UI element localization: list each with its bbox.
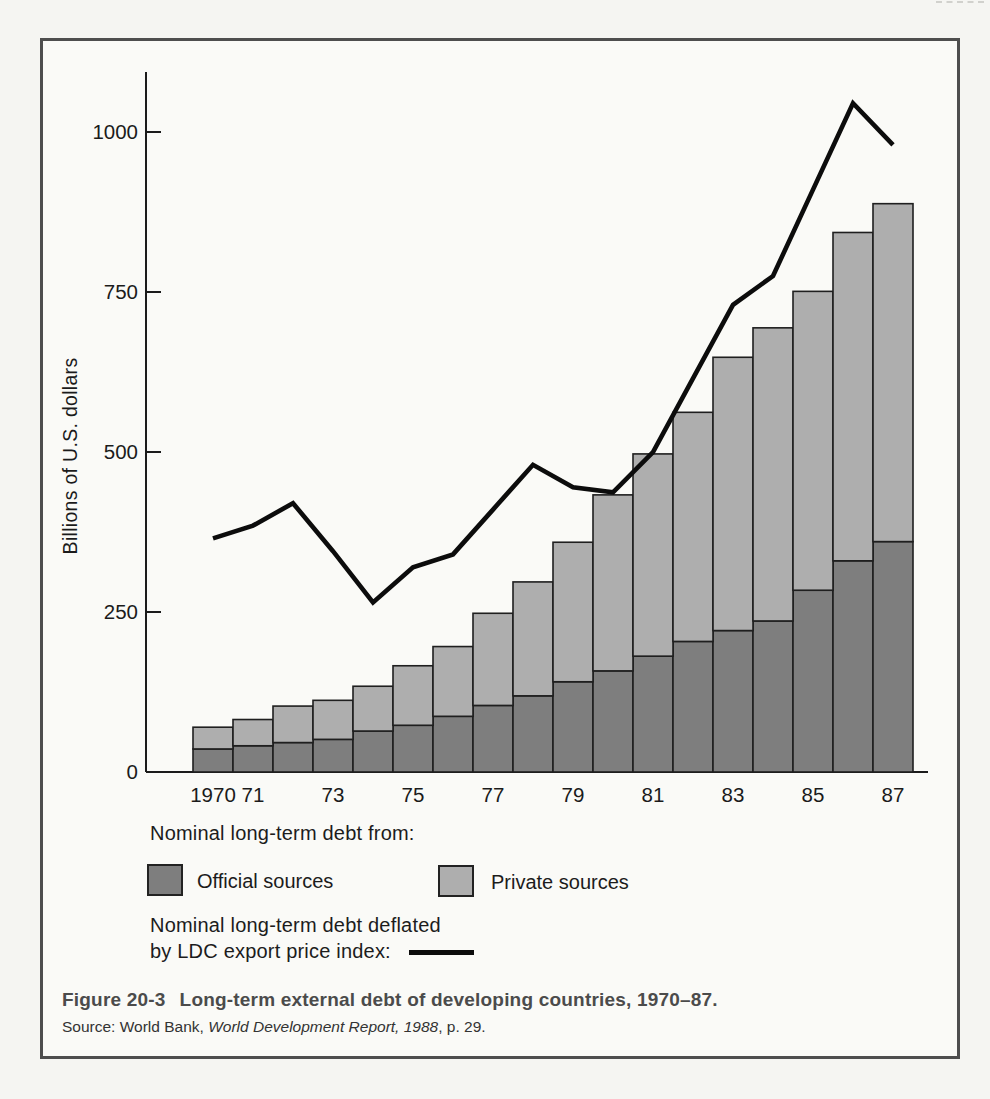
bar-private-1976 <box>433 647 473 717</box>
bar-official-1974 <box>353 731 393 772</box>
bar-official-1985 <box>793 590 833 772</box>
bar-private-1970 <box>193 727 233 749</box>
x-tick-label-71: 71 <box>242 783 265 806</box>
bar-official-1972 <box>273 743 313 772</box>
x-tick-labels: 1970717375777981838587 <box>190 783 904 806</box>
bar-private-1982 <box>673 412 713 641</box>
x-tick-label-87: 87 <box>882 783 905 806</box>
bar-official-1971 <box>233 746 273 772</box>
bar-private-1981 <box>633 454 673 656</box>
bar-official-1980 <box>593 671 633 772</box>
private-sources-label: Private sources <box>491 871 629 894</box>
bar-official-1973 <box>313 739 353 772</box>
bar-private-1985 <box>793 291 833 590</box>
y-axis-title: Billions of U.S. dollars <box>59 358 81 555</box>
bar-private-1972 <box>273 706 313 742</box>
legend-bars-heading: Nominal long-term debt from: <box>150 822 415 845</box>
x-tick-label-77: 77 <box>482 783 505 806</box>
deflated-legend-heading: Nominal long-term debt deflated by LDC e… <box>150 912 441 964</box>
bar-private-1978 <box>513 582 553 696</box>
x-tick-label-85: 85 <box>802 783 825 806</box>
bar-official-1976 <box>433 716 473 772</box>
debt-chart: 02505007501000Billions of U.S. dollars19… <box>0 0 990 1099</box>
bar-official-1981 <box>633 656 673 772</box>
bar-official-1982 <box>673 641 713 772</box>
deflated-line-sample <box>409 950 474 955</box>
bar-official-1987 <box>873 542 913 772</box>
official-sources-swatch <box>147 864 183 896</box>
bar-private-1977 <box>473 613 513 705</box>
x-tick-label-79: 79 <box>562 783 585 806</box>
official-sources-label: Official sources <box>197 870 333 893</box>
y-tick-label: 1000 <box>92 120 138 143</box>
source-prefix: Source: World Bank, <box>62 1018 208 1035</box>
deflated-legend-line1: Nominal long-term debt deflated <box>150 912 441 938</box>
bar-official-1983 <box>713 631 753 772</box>
y-ticks <box>146 132 161 612</box>
y-tick-labels: 02505007501000 <box>92 120 138 783</box>
figure-caption-title: Long-term external debt of developing co… <box>180 989 718 1010</box>
bar-official-1970 <box>193 749 233 772</box>
bar-private-1984 <box>753 328 793 621</box>
y-tick-label: 750 <box>104 280 138 303</box>
bar-private-1973 <box>313 700 353 739</box>
figure-source: Source: World Bank, World Development Re… <box>62 1018 922 1036</box>
bar-private-1986 <box>833 232 873 560</box>
bar-private-1983 <box>713 357 753 630</box>
bar-official-1977 <box>473 705 513 772</box>
x-tick-label-1970: 1970 <box>190 783 236 806</box>
bar-official-1986 <box>833 561 873 772</box>
x-tick-label-81: 81 <box>642 783 665 806</box>
source-suffix: , p. 29. <box>438 1018 485 1035</box>
bar-private-1979 <box>553 542 593 682</box>
bar-official-1975 <box>393 725 433 772</box>
bar-private-1971 <box>233 720 273 746</box>
scanned-book-page: 02505007501000Billions of U.S. dollars19… <box>0 0 990 1099</box>
bar-official-1984 <box>753 621 793 772</box>
y-tick-label: 0 <box>127 760 138 783</box>
deflated-legend-line2: by LDC export price index: <box>150 938 441 964</box>
bar-private-1974 <box>353 686 393 731</box>
bar-private-1987 <box>873 204 913 542</box>
y-tick-label: 500 <box>104 440 138 463</box>
y-tick-label: 250 <box>104 600 138 623</box>
x-tick-label-73: 73 <box>322 783 345 806</box>
figure-caption: Figure 20-3Long-term external debt of de… <box>62 989 922 1011</box>
private-sources-swatch <box>438 865 474 897</box>
source-title-italic: World Development Report, 1988 <box>208 1018 438 1035</box>
x-tick-label-75: 75 <box>402 783 425 806</box>
bar-official-1978 <box>513 696 553 772</box>
bar-private-1975 <box>393 666 433 726</box>
bar-private-1980 <box>593 495 633 671</box>
bar-official-1979 <box>553 682 593 772</box>
x-tick-label-83: 83 <box>722 783 745 806</box>
figure-caption-label: Figure 20-3 <box>62 989 166 1010</box>
